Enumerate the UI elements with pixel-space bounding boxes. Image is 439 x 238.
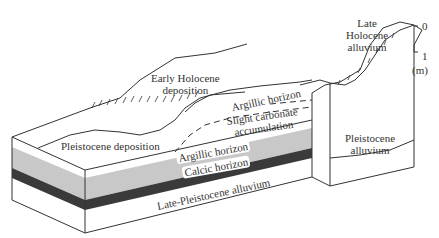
label-late-holocene: Late Holocene alluvium <box>346 17 388 53</box>
label-pleistocene-alluvium-line2: alluvium <box>345 144 395 156</box>
label-pleistocene-alluvium: Pleistocene alluvium <box>345 132 395 156</box>
scale-unit-label: (m) <box>412 64 428 76</box>
scale-bottom-label: 1 <box>422 50 428 62</box>
label-pleistocene-alluvium-line1: Pleistocene <box>345 132 395 144</box>
label-late-holocene-line1: Late <box>346 17 388 29</box>
label-late-holocene-line3: alluvium <box>346 41 388 53</box>
label-early-holocene-line2: deposition <box>151 84 220 96</box>
label-late-holocene-line2: Holocene <box>346 29 388 41</box>
scale-top-label: 0 <box>422 20 428 32</box>
label-pleistocene-deposition: Pleistocene deposition <box>61 140 160 152</box>
label-early-holocene: Early Holocene deposition <box>151 72 220 96</box>
label-early-holocene-line1: Early Holocene <box>151 72 220 84</box>
